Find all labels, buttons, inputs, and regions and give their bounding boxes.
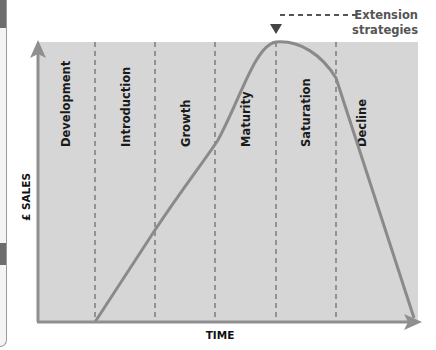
product-life-cycle-diagram: Development Introduction Growth Maturity… bbox=[0, 0, 436, 350]
extension-label-line2: strategies bbox=[352, 23, 418, 37]
y-axis-label: £ SALES bbox=[20, 173, 32, 221]
x-axis-label: TIME bbox=[206, 329, 235, 341]
stage-label-introduction: Introduction bbox=[119, 67, 133, 147]
stage-label-growth: Growth bbox=[179, 100, 193, 147]
extension-label-line1: Extension bbox=[354, 8, 418, 22]
extension-down-arrow-icon bbox=[270, 24, 282, 34]
stage-label-maturity: Maturity bbox=[239, 91, 253, 147]
stage-label-development: Development bbox=[59, 60, 73, 147]
stage-label-saturation: Saturation bbox=[299, 78, 313, 147]
